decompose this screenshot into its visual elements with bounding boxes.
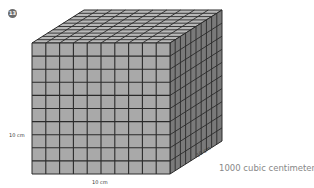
volume-caption: 1000 cubic centimeters bbox=[219, 163, 314, 173]
cube-diagram bbox=[0, 0, 314, 188]
height-label: 10 cm bbox=[9, 132, 25, 138]
cube-front-face bbox=[32, 43, 170, 174]
width-label: 10 cm bbox=[92, 179, 108, 185]
